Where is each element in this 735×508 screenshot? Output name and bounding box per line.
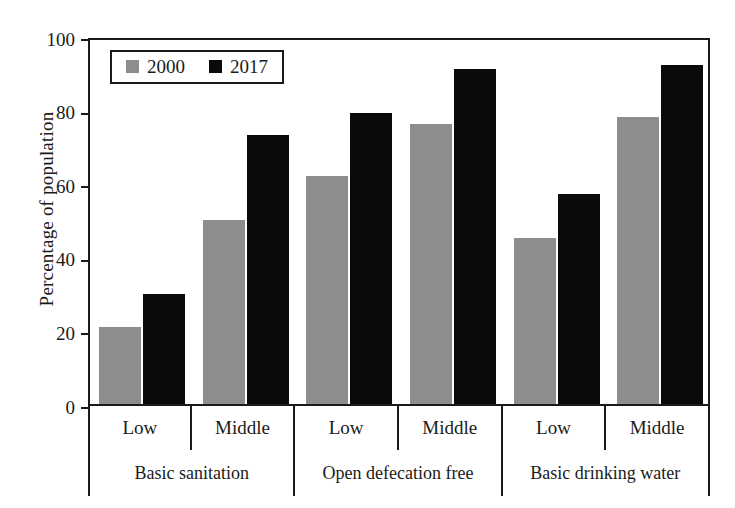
y-axis-tick-label: 60 — [56, 177, 81, 196]
bar-2000-basic-drinking-water-low — [514, 238, 556, 404]
x-axis-subcategory-middle: Middle — [399, 406, 503, 450]
tick-mark-icon — [81, 113, 90, 115]
y-axis-title: Percentage of population — [36, 44, 58, 374]
bar-2000-basic-drinking-water-middle — [617, 117, 659, 404]
x-axis-subcategory-low: Low — [88, 406, 192, 450]
bar-2017-basic-sanitation-low — [143, 294, 185, 404]
bar-2017-open-defecation-free-low — [350, 113, 392, 404]
legend-label-2000: 2000 — [147, 57, 185, 76]
x-axis-subcategory-middle: Middle — [606, 406, 710, 450]
bar-2000-basic-sanitation-middle — [203, 220, 245, 404]
tick-mark-icon — [81, 333, 90, 335]
plot-area: 020406080100 2000 2017 — [88, 38, 710, 406]
x-axis-group-basic-drinking-water: Basic drinking water — [503, 450, 710, 496]
bars-layer — [90, 40, 708, 404]
legend-item-2017: 2017 — [209, 57, 268, 76]
x-axis-group-open-defecation-free: Open defecation free — [295, 450, 502, 496]
y-axis-tick-label: 40 — [56, 250, 81, 269]
bar-2000-open-defecation-free-middle — [410, 124, 452, 404]
legend-label-2017: 2017 — [230, 57, 268, 76]
y-axis-tick-label: 0 — [66, 398, 82, 417]
tick-mark-icon — [81, 260, 90, 262]
legend-swatch-2000-icon — [126, 60, 139, 73]
x-axis-group-row: Basic sanitationOpen defecation freeBasi… — [88, 450, 710, 496]
tick-mark-icon — [81, 186, 90, 188]
y-axis-tick-label: 100 — [47, 30, 82, 49]
x-axis-subcategory-row: LowMiddleLowMiddleLowMiddle — [88, 406, 710, 450]
x-axis-group-basic-sanitation: Basic sanitation — [88, 450, 295, 496]
bar-chart-figure: Percentage of population 020406080100 20… — [0, 0, 735, 508]
x-axis-subcategory-middle: Middle — [192, 406, 296, 450]
legend-item-2000: 2000 — [126, 57, 185, 76]
bar-2017-basic-sanitation-middle — [247, 135, 289, 404]
y-axis-tick-label: 20 — [56, 324, 81, 343]
bar-2000-open-defecation-free-low — [306, 176, 348, 404]
chart-legend: 2000 2017 — [110, 50, 284, 84]
x-axis: LowMiddleLowMiddleLowMiddle Basic sanita… — [88, 406, 710, 496]
x-axis-subcategory-low: Low — [295, 406, 399, 450]
x-axis-subcategory-low: Low — [503, 406, 607, 450]
tick-mark-icon — [81, 39, 90, 41]
bar-2000-basic-sanitation-low — [99, 327, 141, 404]
y-axis-tick-label: 80 — [56, 103, 81, 122]
bar-2017-basic-drinking-water-middle — [661, 65, 703, 404]
legend-swatch-2017-icon — [209, 60, 222, 73]
bar-2017-basic-drinking-water-low — [558, 194, 600, 404]
bar-2017-open-defecation-free-middle — [454, 69, 496, 404]
